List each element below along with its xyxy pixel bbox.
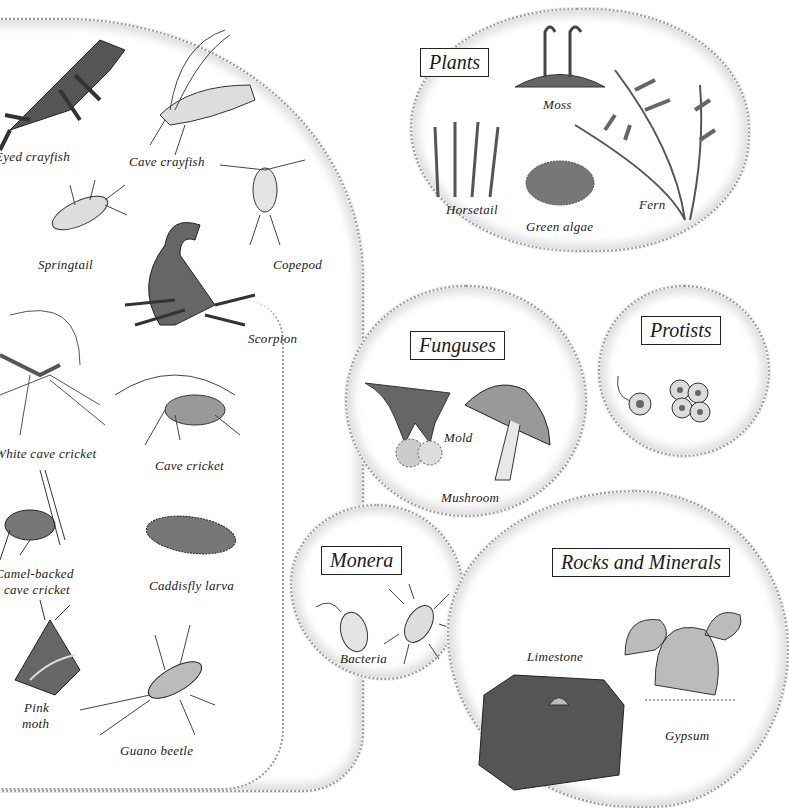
funguses-title: Funguses <box>410 331 505 360</box>
white-cave-cricket-illustration <box>0 295 110 435</box>
gypsum-illustration <box>615 605 745 705</box>
label-eyed-crayfish: Eyed crayfish <box>0 149 70 165</box>
protists-title: Protists <box>641 316 721 345</box>
horsetail-illustration <box>430 122 500 197</box>
label-cave-cricket: Cave cricket <box>155 458 224 474</box>
rocks-minerals-title: Rocks and Minerals <box>552 548 730 577</box>
label-moth: moth <box>22 716 49 732</box>
camel-backed-cave-cricket-illustration <box>0 470 80 560</box>
plants-title: Plants <box>420 48 489 77</box>
label-mushroom: Mushroom <box>441 490 499 506</box>
label-camel-backed: Camel-backed <box>0 566 74 582</box>
monera-title: Monera <box>321 546 402 575</box>
label-white-cave-cricket: White cave cricket <box>0 446 96 462</box>
limestone-illustration <box>474 675 624 790</box>
label-green-algae: Green algae <box>526 219 593 235</box>
caddisfly-larva-illustration <box>143 510 238 560</box>
label-fern: Fern <box>639 197 665 213</box>
label-springtail: Springtail <box>38 257 93 273</box>
label-copepod: Copepod <box>273 257 322 273</box>
label-bacteria: Bacteria <box>340 651 387 667</box>
label-pink: Pink <box>24 700 49 716</box>
label-limestone: Limestone <box>527 649 583 665</box>
bacteria-pili-illustration <box>384 584 454 664</box>
protist-cluster-illustration <box>668 378 713 423</box>
eyed-crayfish-illustration <box>0 20 130 150</box>
label-gypsum: Gypsum <box>665 728 709 744</box>
bacteria-flagellum-illustration <box>316 597 371 657</box>
label-guano-beetle: Guano beetle <box>120 743 193 759</box>
label-moss: Moss <box>543 97 572 113</box>
cave-crayfish-illustration <box>130 25 260 150</box>
scorpion-illustration <box>115 205 255 345</box>
guano-beetle-illustration <box>80 625 220 740</box>
label-horsetail: Horsetail <box>446 202 498 218</box>
label-cave-cricket-2: cave cricket <box>4 582 70 598</box>
label-scorpion: Scorpion <box>248 331 297 347</box>
pink-moth-illustration <box>10 600 90 695</box>
cave-cricket-illustration <box>115 355 245 455</box>
label-cave-crayfish: Cave crayfish <box>129 154 205 170</box>
protist-single-illustration <box>615 376 660 421</box>
mold-illustration <box>365 383 455 468</box>
protists-region <box>598 285 770 457</box>
mushroom-illustration <box>465 385 555 485</box>
label-caddisfly-larva: Caddisfly larva <box>149 578 234 594</box>
